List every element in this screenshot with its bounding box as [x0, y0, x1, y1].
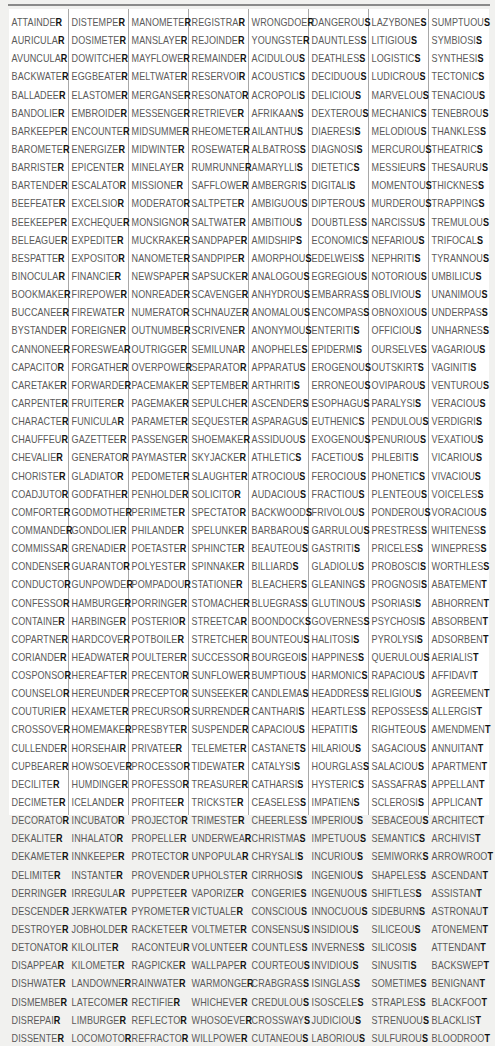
word-entry: CASTANETS — [249, 739, 300, 757]
word-final-letter: S — [480, 542, 486, 554]
word-final-letter: R — [176, 179, 183, 191]
word-entry: BAROMETER — [9, 140, 60, 158]
word-stem: ASTRONAU — [432, 905, 483, 917]
word-stem: MIDWINTE — [132, 143, 178, 155]
word-stem: PRIVATEE — [132, 742, 176, 754]
word-stem: JUDICIOU — [312, 1014, 355, 1026]
word-entry: SALTWATER — [189, 213, 240, 231]
word-final-letter: S — [359, 597, 365, 609]
word-final-letter: S — [300, 796, 306, 808]
word-entry: SINUSITIS — [369, 956, 420, 974]
word-stem: DOSIMETE — [72, 34, 120, 46]
word-final-letter: S — [477, 143, 483, 155]
word-entry: BOOKMAKER — [9, 285, 60, 303]
word-final-letter: R — [240, 959, 247, 971]
word-entry: BARRISTER — [9, 158, 60, 176]
word-entry: ATROCIOUS — [249, 467, 300, 485]
word-stem: DANGEROU — [312, 16, 365, 28]
word-final-letter: R — [61, 542, 68, 554]
word-entry: SEMIWORKS — [369, 847, 420, 865]
word-stem: ACOUSTIC — [252, 70, 299, 82]
word-stem: TENEBROU — [432, 107, 483, 119]
word-stem: PROFITEE — [132, 796, 178, 808]
word-entry: SHIFTLESS — [369, 884, 420, 902]
word-entry: HAMBURGER — [69, 594, 120, 612]
word-stem: GASTRITI — [312, 542, 354, 554]
word-entry: LAZYBONES — [369, 13, 420, 31]
word-stem: NEPHRITI — [372, 252, 415, 264]
word-entry: DECIMETER — [9, 793, 60, 811]
word-stem: WILLPOWE — [192, 1032, 241, 1044]
word-entry: RAINWATER — [129, 974, 180, 992]
word-stem: POMPADOU — [132, 578, 185, 590]
word-final-letter: S — [358, 506, 364, 518]
word-stem: RESERVOI — [192, 70, 239, 82]
word-final-letter: S — [484, 16, 490, 28]
word-stem: OVIPAROU — [372, 379, 420, 391]
word-stem: UNDERWEA — [192, 832, 245, 844]
word-final-letter: R — [61, 234, 68, 246]
word-stem: CATHARSI — [252, 778, 298, 790]
word-entry: ELASTOMER — [69, 86, 120, 104]
word-final-letter: S — [362, 107, 368, 119]
word-entry: VICTUALER — [189, 902, 240, 920]
word-stem: APPELLAN — [432, 778, 479, 790]
word-stem: LUDICROU — [372, 70, 420, 82]
word-stem: SEMIWORK — [372, 850, 423, 862]
word-stem: REJOINDE — [192, 34, 238, 46]
word-final-letter: R — [60, 216, 67, 228]
word-entry: DIGITALIS — [309, 176, 360, 194]
word-entry: BLACKLIST — [429, 1011, 481, 1029]
word-final-letter: T — [483, 633, 489, 645]
word-stem: SAPSUCKE — [192, 270, 242, 282]
word-final-letter: R — [179, 560, 186, 572]
word-entry: CULLENDER — [9, 739, 60, 757]
word-entry: HEREAFTER — [69, 666, 120, 684]
word-entry: FORWARDER — [69, 376, 120, 394]
word-final-letter: R — [240, 742, 247, 754]
word-final-letter: S — [418, 361, 424, 373]
word-entry: VICARIOUS — [429, 448, 481, 466]
word-stem: CONGERIE — [252, 887, 301, 899]
word-entry: DECORATOR — [9, 811, 60, 829]
word-stem: DEKAMETE — [12, 850, 62, 862]
word-stem: ISOSCELE — [312, 996, 358, 1008]
word-stem: FEROCIOU — [312, 470, 360, 482]
word-entry: OBNOXIOUS — [369, 303, 420, 321]
word-final-letter: R — [58, 361, 65, 373]
word-entry: ANHYDROUS — [249, 285, 300, 303]
word-final-letter: R — [236, 578, 243, 590]
word-entry: AGREEMENT — [429, 684, 481, 702]
word-stem: THANKLES — [432, 125, 480, 137]
word-stem: RAPACIOU — [372, 669, 419, 681]
word-stem: EDELWEIS — [312, 252, 359, 264]
word-stem: SCLEROSI — [372, 796, 418, 808]
word-entry: SHOEMAKER — [189, 430, 240, 448]
word-stem: ABHORREN — [432, 597, 484, 609]
word-final-letter: R — [61, 941, 68, 953]
word-stem: ENERGIZE — [72, 143, 119, 155]
word-entry: TENEBROUS — [429, 104, 481, 122]
word-entry: OUTRIGGER — [129, 340, 180, 358]
word-final-letter: S — [297, 125, 303, 137]
word-stem: TENACIOU — [432, 89, 479, 101]
word-final-letter: S — [419, 905, 425, 917]
word-stem: BEEKEEPE — [12, 216, 61, 228]
word-entry: PACEMAKER — [129, 376, 180, 394]
word-entry: FEROCIOUS — [309, 467, 360, 485]
word-stem: HYSTERIC — [312, 778, 358, 790]
word-stem: ISINGLAS — [312, 977, 354, 989]
word-entry: BUCCANEER — [9, 303, 60, 321]
word-entry: LATECOMER — [69, 993, 120, 1011]
word-entry: RACKETEER — [129, 920, 180, 938]
word-stem: PYROMETE — [132, 905, 183, 917]
word-entry: THICKNESS — [429, 176, 481, 194]
word-final-letter: S — [421, 524, 427, 536]
word-stem: SOLICITO — [192, 488, 235, 500]
word-stem: PROFESSO — [132, 778, 183, 790]
word-stem: CHAUFFEU — [12, 433, 62, 445]
word-entry: JOBHOLDER — [69, 920, 120, 938]
word-entry: INSTANTER — [69, 866, 120, 884]
word-final-letter: R — [239, 506, 246, 518]
